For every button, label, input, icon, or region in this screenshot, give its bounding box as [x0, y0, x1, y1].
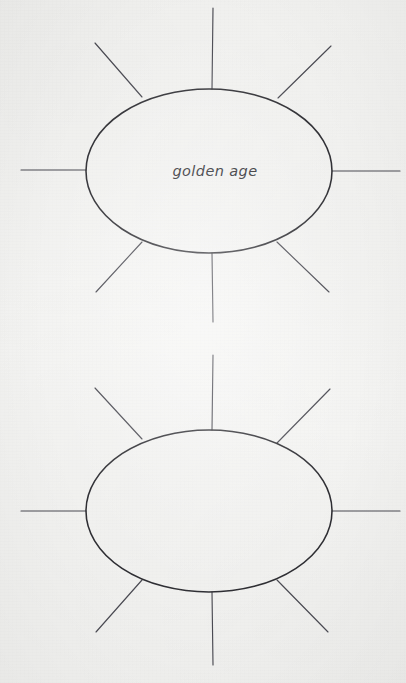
ray-bottom-left[interactable]: [96, 580, 142, 632]
ray-bottom-right[interactable]: [277, 580, 328, 632]
ray-top-left[interactable]: [95, 43, 142, 97]
ray-bottom-right[interactable]: [277, 242, 329, 292]
ray-top[interactable]: [212, 8, 213, 89]
ray-top-left[interactable]: [95, 388, 142, 439]
ray-group-bottom-web: [21, 355, 400, 665]
ray-bottom[interactable]: [212, 253, 213, 322]
ray-top-right[interactable]: [277, 389, 330, 443]
word-web-bottom[interactable]: [21, 355, 400, 665]
ray-top[interactable]: [212, 355, 213, 430]
word-web-top[interactable]: golden age: [21, 8, 400, 322]
ray-bottom-left[interactable]: [96, 242, 142, 292]
ray-top-right[interactable]: [278, 46, 331, 98]
diagram-canvas: golden age: [0, 0, 406, 683]
center-ellipse-bottom[interactable]: [86, 430, 332, 592]
ray-bottom[interactable]: [212, 592, 213, 665]
center-label-top: golden age: [172, 163, 257, 179]
worksheet-page: golden age: [0, 0, 406, 683]
